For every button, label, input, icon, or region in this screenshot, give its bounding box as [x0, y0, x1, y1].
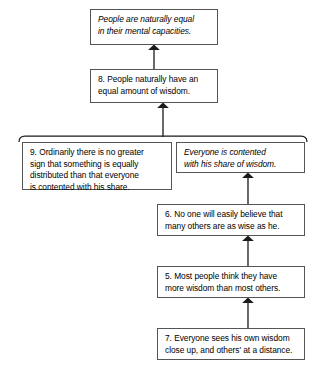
node-statement-9-label: 9. Ordinarily there is no greater sign t… — [30, 147, 165, 193]
node-statement-7: 7. Everyone sees his own wisdom close up… — [157, 328, 305, 360]
node-main-conclusion-label: People are naturally equal in their ment… — [98, 14, 211, 37]
node-implicit-premise-contented-label: Everyone is contented with his share of … — [184, 147, 298, 170]
node-main-conclusion: People are naturally equal in their ment… — [90, 9, 218, 45]
node-statement-6-label: 6. No one will easily believe that many … — [165, 209, 298, 232]
argument-map-diagram: People are naturally equal in their ment… — [0, 0, 324, 372]
node-implicit-premise-contented: Everyone is contented with his share of … — [176, 142, 305, 173]
node-statement-6: 6. No one will easily believe that many … — [157, 204, 305, 236]
node-statement-9: 9. Ordinarily there is no greater sign t… — [22, 142, 172, 190]
node-statement-5-label: 5. Most people think they have more wisd… — [165, 271, 298, 294]
node-statement-5: 5. Most people think they have more wisd… — [157, 266, 305, 298]
node-statement-7-label: 7. Everyone sees his own wisdom close up… — [165, 333, 298, 356]
node-statement-8-label: 8. People naturally have an equal amount… — [98, 74, 211, 97]
node-statement-8: 8. People naturally have an equal amount… — [90, 69, 218, 103]
